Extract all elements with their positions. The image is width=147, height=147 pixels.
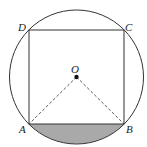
label-a: A <box>18 123 26 135</box>
label-b: B <box>126 123 133 135</box>
label-o: O <box>71 63 79 75</box>
geometry-diagram: O A B C D <box>0 0 147 147</box>
label-d: D <box>17 21 26 33</box>
shaded-segment <box>29 124 124 144</box>
label-c: C <box>125 21 133 33</box>
dashed-oa <box>29 77 77 124</box>
dashed-ob <box>77 77 125 124</box>
center-point <box>74 75 78 79</box>
